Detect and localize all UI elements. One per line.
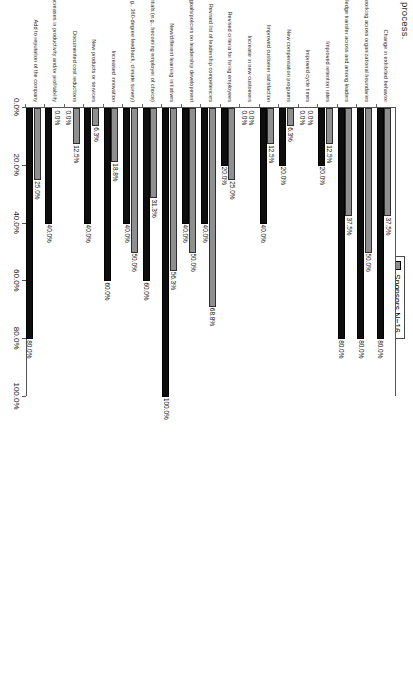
bar-partners[interactable]: 0.0%: [240, 108, 247, 109]
bar-partners[interactable]: 40.0%: [84, 108, 91, 224]
bar-sponsors[interactable]: 12.5%: [326, 108, 333, 144]
bar-sponsors[interactable]: 68.8%: [209, 108, 216, 307]
category-label: Increased innovation: [111, 50, 117, 102]
bar-group: 0.0%0.0%: [239, 108, 258, 396]
bar-value-label: 0.0%: [299, 111, 306, 126]
value-axis-tick: [22, 107, 26, 108]
bar-value-label: 80.0%: [377, 340, 384, 358]
bar-partners[interactable]: 40.0%: [123, 108, 130, 224]
bar-partners[interactable]: 40.0%: [45, 108, 52, 224]
bar-value-label: 60.0%: [143, 282, 150, 300]
bar-sponsors[interactable]: 37.5%: [384, 108, 391, 216]
category-label: Improved cycle times: [305, 49, 311, 102]
bar-value-label: 56.3%: [170, 272, 177, 290]
bar-partners[interactable]: 60.0%: [104, 108, 111, 281]
category-label: Improved knowledge transfer across and a…: [344, 0, 350, 102]
bar-value-label: 6.3%: [287, 127, 294, 142]
bar-value-label: 40.0%: [182, 225, 189, 243]
value-axis-tick: [22, 280, 26, 281]
value-axis-tick: [22, 165, 26, 166]
bar-sponsors[interactable]: 6.3%: [92, 108, 99, 126]
bar-sponsors[interactable]: 18.8%: [111, 108, 118, 162]
bar-value-label: 20.0%: [318, 167, 325, 185]
bar-value-label: 80.0%: [26, 340, 33, 358]
bar-value-label: 50.0%: [365, 254, 372, 272]
bar-value-label: 0.0%: [53, 111, 60, 126]
category-label: Increase in new customers: [247, 35, 253, 102]
bar-partners[interactable]: 60.0%: [143, 108, 150, 281]
bar-value-label: 40.0%: [201, 225, 208, 243]
bar-value-label: 18.8%: [111, 163, 118, 181]
category-label: Improved ability to attract high potenti…: [150, 0, 156, 102]
bar-value-label: 25.0%: [34, 181, 41, 199]
bar-value-label: 60.0%: [104, 282, 111, 300]
bar-partners[interactable]: 80.0%: [338, 108, 345, 339]
bar-sponsors[interactable]: 12.5%: [267, 108, 274, 144]
bar-value-label: 0.0%: [306, 111, 313, 126]
bar-partners[interactable]: 20.0%: [318, 108, 325, 166]
bar-sponsors[interactable]: 50.0%: [189, 108, 196, 253]
value-axis-tick-label: 60.0%: [12, 269, 21, 292]
bar-group: 37.5%80.0%: [376, 108, 395, 396]
bar-value-label: 37.5%: [384, 217, 391, 235]
bar-sponsors[interactable]: 0.0%: [53, 108, 60, 109]
bar-value-label: 80.0%: [357, 340, 364, 358]
bar-partners[interactable]: 20.0%: [279, 108, 286, 166]
bar-sponsors[interactable]: 31.3%: [150, 108, 157, 198]
bar-group: 12.5%40.0%: [259, 108, 278, 396]
bar-partners[interactable]: 100.0%: [162, 108, 169, 397]
bar-sponsors[interactable]: 0.0%: [248, 108, 255, 109]
bar-sponsors[interactable]: 25.0%: [228, 108, 235, 180]
bar-sponsors[interactable]: 50.0%: [365, 108, 372, 253]
caption-fragment: process.: [400, 2, 411, 40]
bar-partners[interactable]: 0.0%: [299, 108, 306, 109]
category-axis: Change in exhibited behaviorImproved col…: [26, 0, 396, 107]
category-label: Add to reputation of the company: [33, 20, 39, 102]
bar-group: 50.0%40.0%: [122, 108, 141, 396]
bar-group: 56.3%100.0%: [161, 108, 180, 396]
bar-group: 12.5%0.0%: [64, 108, 83, 396]
bar-value-label: 20.0%: [279, 167, 286, 185]
bar-partners[interactable]: 40.0%: [182, 108, 189, 224]
bar-sponsors[interactable]: 25.0%: [34, 108, 41, 180]
bar-value-label: 100.0%: [162, 398, 169, 420]
bar-partners[interactable]: 80.0%: [377, 108, 384, 339]
bar-value-label: 12.5%: [326, 145, 333, 163]
bar-partners[interactable]: 80.0%: [357, 108, 364, 339]
bar-sponsors[interactable]: 0.0%: [306, 108, 313, 109]
bar-sponsors[interactable]: 12.5%: [73, 108, 80, 144]
rotated-figure-container: process. Sponsors N=16 Partners N=5 Chan…: [0, 0, 413, 684]
bar-partners[interactable]: 80.0%: [26, 108, 33, 339]
bar-sponsors[interactable]: 56.3%: [170, 108, 177, 271]
category-label: Change in exhibited behavior: [383, 30, 389, 102]
bar-group: 68.8%40.0%: [200, 108, 219, 396]
plot-area: 37.5%80.0%50.0%80.0%37.5%80.0%12.5%20.0%…: [26, 107, 396, 396]
bar-sponsors[interactable]: 6.3%: [287, 108, 294, 126]
bar-value-label: 50.0%: [189, 254, 196, 272]
bar-value-label: 6.3%: [92, 127, 99, 142]
category-label: New/different learning initiatives: [169, 23, 175, 102]
value-axis-tick: [22, 338, 26, 339]
bar-group: 18.8%60.0%: [103, 108, 122, 396]
bar-chart-figure: process. Sponsors N=16 Partners N=5 Chan…: [0, 0, 413, 684]
category-label: Improved retention rates: [325, 41, 331, 102]
bar-sponsors[interactable]: 50.0%: [131, 108, 138, 253]
value-axis-tick-label: 100.0%: [12, 382, 21, 409]
bar-partners[interactable]: 40.0%: [260, 108, 267, 224]
bar-partners[interactable]: 20.0%: [221, 108, 228, 166]
category-label: Documented cost reductions: [72, 31, 78, 102]
bar-value-label: 31.3%: [150, 199, 157, 217]
value-axis-tick-label: 20.0%: [12, 153, 21, 176]
bar-group: 0.0%40.0%: [44, 108, 63, 396]
bar-value-label: 68.8%: [209, 308, 216, 326]
bar-partners[interactable]: 0.0%: [65, 108, 72, 109]
bar-value-label: 80.0%: [338, 340, 345, 358]
bar-value-label: 0.0%: [240, 111, 247, 126]
bar-partners[interactable]: 40.0%: [201, 108, 208, 224]
category-label: Improved collaboration/networking across…: [364, 0, 370, 102]
bar-value-label: 0.0%: [248, 111, 255, 126]
category-label: Revised goals/policies on leadership dev…: [189, 0, 195, 102]
bar-sponsors[interactable]: 37.5%: [345, 108, 352, 216]
bar-group: 50.0%80.0%: [356, 108, 375, 396]
category-label: Revised criteria for hiring employees: [227, 12, 233, 102]
